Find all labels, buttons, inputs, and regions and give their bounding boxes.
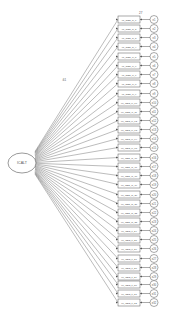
observed-variable-label: MI_OBS_tl_24 [121, 230, 137, 233]
arrowhead-icon [140, 111, 142, 113]
error-term-label: e27 [152, 257, 157, 261]
arrowhead-icon [116, 147, 118, 149]
arrowhead-icon [140, 138, 142, 140]
arrowhead-icon [116, 65, 118, 67]
observed-variable-label: MI_OBS_ai_19 [121, 184, 138, 187]
error-term-label: e32 [152, 301, 157, 305]
arrowhead-icon [140, 147, 142, 149]
arrowhead-icon [140, 175, 142, 177]
observed-variable-label: MI_OBS_ai_18 [121, 175, 138, 178]
loading-path [35, 166, 118, 203]
arrowhead-icon [140, 120, 142, 122]
arrowhead-icon [140, 302, 142, 304]
arrowhead-icon [116, 138, 118, 140]
loading-path [35, 171, 118, 259]
loading-path [35, 38, 118, 153]
arrowhead-icon [140, 102, 142, 104]
observed-variable-label: MI_OBS_tl_26 [121, 248, 137, 251]
arrowhead-icon [116, 129, 118, 131]
arrowhead-icon [116, 258, 118, 260]
observed-variable-label: MI_OBS_tl_25 [121, 239, 137, 242]
error-term-label: e30 [152, 283, 157, 287]
arrowhead-icon [140, 258, 142, 260]
observed-variable-label: MI_OBS_sl_1 [122, 19, 137, 22]
arrowhead-icon [140, 284, 142, 286]
arrowhead-icon [140, 56, 142, 58]
loading-path [35, 112, 118, 159]
error-term-label: e18 [152, 174, 157, 178]
error-term-label: e14 [152, 137, 157, 141]
error-term-label: e17 [152, 165, 157, 169]
arrowhead-icon [140, 46, 142, 48]
arrowhead-icon [116, 184, 118, 186]
loading-path [35, 75, 118, 156]
arrowhead-icon [140, 129, 142, 131]
arrowhead-icon [140, 239, 142, 241]
observed-variable-label: MI_OBS_sl_4 [122, 46, 137, 49]
loading-path [35, 173, 118, 285]
arrowhead-icon [140, 194, 142, 196]
loading-path [35, 163, 118, 166]
latent-factor: ICALT [8, 153, 36, 173]
error-term-label: e11 [152, 110, 157, 114]
loading-path [35, 172, 118, 276]
error-term-label: e26 [152, 247, 157, 251]
observed-variable-label: MI_OBS_tl_27 [121, 258, 137, 261]
observed-variable-label: MI_OBS_ci_9 [122, 93, 137, 96]
loading-path [35, 171, 118, 267]
observed-variable-label: MI_OBS_di_21 [121, 203, 138, 206]
observed-variable-label: MI_OBS_cl_6 [122, 65, 137, 68]
observed-variable-label: MI_OBS_cl_5 [122, 56, 137, 59]
loading-path [35, 57, 118, 155]
loading-path [35, 168, 118, 222]
error-term-label: e25 [152, 238, 157, 242]
observed-variable-label: MI_OBS_ci_15 [121, 147, 138, 150]
arrowhead-icon [140, 221, 142, 223]
arrowhead-icon [140, 184, 142, 186]
arrowhead-icon [116, 74, 118, 76]
error-term-label: e10 [152, 101, 157, 105]
observed-variable-label: MI_OBS_cl_8 [122, 83, 137, 86]
loading-path [35, 94, 118, 158]
variance-label: 27 [139, 11, 143, 15]
error-term-label: e19 [152, 183, 157, 187]
observed-variable-label: MI_OBS_ci_14 [121, 138, 138, 141]
arrowhead-icon [140, 74, 142, 76]
arrowhead-icon [140, 37, 142, 39]
arrowhead-icon [140, 248, 142, 250]
loading-path [35, 29, 118, 153]
observed-variable-label: MI_OBS_ci_10 [121, 102, 138, 105]
error-term-label: e22 [152, 211, 157, 215]
error-term-label: e29 [152, 275, 157, 279]
observed-variable-label: MI_OBS_tl_32 [121, 302, 137, 305]
arrowhead-icon [116, 248, 118, 250]
arrowhead-icon [116, 194, 118, 196]
loading-path [35, 130, 118, 161]
arrowhead-icon [116, 166, 118, 168]
observed-variable-label: MI_OBS_ai_17 [121, 166, 138, 169]
observed-variable-label: MI_OBS_tl_28 [121, 267, 137, 270]
loading-path [35, 168, 118, 230]
arrowhead-icon [140, 276, 142, 278]
arrowhead-icon [140, 267, 142, 269]
observed-variable-label: MI_OBS_sl_2 [122, 28, 137, 31]
loading-label: .61 [62, 78, 67, 82]
error-term-label: e20 [152, 193, 157, 197]
observed-variable-label: MI_OBS_ci_11 [121, 111, 138, 114]
indicator-nodes: MI_OBS_sl_1e1MI_OBS_sl_2e2MI_OBS_sl_3e3M… [62, 11, 158, 307]
latent-factor-label: ICALT [17, 161, 28, 165]
arrowhead-icon [140, 230, 142, 232]
observed-variable-label: MI_OBS_di_20 [121, 194, 138, 197]
loading-path [35, 173, 118, 293]
observed-variable-label: MI_OBS_tl_30 [121, 284, 137, 287]
loading-path [35, 47, 118, 154]
loading-path [35, 20, 118, 152]
error-term-label: e23 [152, 220, 157, 224]
loading-path [35, 174, 118, 302]
arrowhead-icon [140, 65, 142, 67]
error-term-label: e21 [152, 202, 157, 206]
observed-variable-label: MI_OBS_tl_31 [121, 293, 137, 296]
error-term-label: e28 [152, 266, 157, 270]
arrowhead-icon [140, 93, 142, 95]
arrowhead-icon [140, 203, 142, 205]
